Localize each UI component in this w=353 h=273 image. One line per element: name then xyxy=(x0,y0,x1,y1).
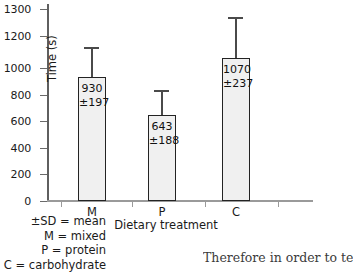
bar-mean-P: 643 xyxy=(152,120,173,133)
legend-item-c: C = carbohydrate xyxy=(2,258,106,273)
x-category-label-C: C xyxy=(232,206,240,218)
y-tick-label-600: 600 xyxy=(11,116,31,127)
y-tick-label-1200: 1200 xyxy=(4,31,31,42)
bar-value-M: 930 ±197 xyxy=(79,82,105,109)
y-tick-label-400: 400 xyxy=(11,142,31,153)
x-tick-mid-MP xyxy=(132,201,133,207)
y-tick-1000: 1000 xyxy=(40,68,47,69)
x-tick-left-M xyxy=(61,201,62,207)
error-bar-cap-M xyxy=(84,47,99,49)
legend-item-sd: ±SD = mean xyxy=(2,214,106,229)
plot-area: Time (s) 0 200 400 600 800 1000 1200 130… xyxy=(47,4,313,201)
y-axis-title: Time (s) xyxy=(45,35,59,82)
bar-mean-M: 930 xyxy=(82,82,103,95)
y-tick-label-0: 0 xyxy=(24,196,31,207)
bar-value-P: 643 ±188 xyxy=(149,120,175,147)
y-tick-label-1300: 1300 xyxy=(4,4,31,15)
bar-mean-C: 1070 xyxy=(223,63,251,76)
body-text-fragment: Therefore in order to tes xyxy=(203,250,353,265)
bar-M: 930 ±197 xyxy=(78,77,106,201)
y-tick-label-1000: 1000 xyxy=(4,63,31,74)
y-tick-0: 0 xyxy=(40,201,47,202)
y-tick-600: 600 xyxy=(40,121,47,122)
y-tick-1200: 1200 xyxy=(40,36,47,37)
bar-value-C: 1070 ±237 xyxy=(223,63,249,90)
x-tick-mid-PC xyxy=(205,201,206,207)
y-tick-1300: 1300 xyxy=(40,9,47,10)
legend-item-p: P = protein xyxy=(2,243,106,258)
bar-C: 1070 ±237 xyxy=(222,58,250,201)
bar-sd-C: ±237 xyxy=(223,77,253,90)
y-tick-400: 400 xyxy=(40,148,47,149)
error-bar-cap-C xyxy=(228,17,243,19)
x-axis-title: Dietary treatment xyxy=(114,218,218,232)
y-tick-label-200: 200 xyxy=(11,169,31,180)
bar-sd-P: ±188 xyxy=(149,134,179,147)
y-tick-label-800: 800 xyxy=(11,89,31,100)
y-tick-800: 800 xyxy=(40,95,47,96)
legend-item-m: M = mixed xyxy=(2,229,106,244)
y-tick-200: 200 xyxy=(40,174,47,175)
chart-legend: ±SD = mean M = mixed P = protein C = car… xyxy=(2,214,106,272)
bar-P: 643 ±188 xyxy=(148,115,176,201)
x-tick-right-C xyxy=(278,201,279,207)
bar-sd-M: ±197 xyxy=(79,96,109,109)
error-bar-cap-P xyxy=(154,90,169,92)
x-category-label-P: P xyxy=(159,206,166,218)
